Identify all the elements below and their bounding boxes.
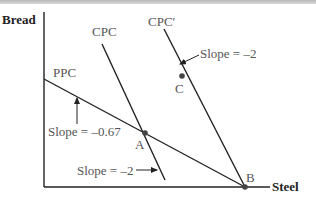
ppc-slope-label: Slope = –0.67 [48,125,121,138]
cpc-prime-slope-arrow [180,55,199,64]
cpc-label: CPC [92,25,117,38]
cpc-slope-label: Slope = –2 [77,164,133,177]
ppc-label: PPC [53,66,76,79]
point-a-label: A [135,138,144,151]
cpc-prime-label: CPC′ [148,15,175,28]
point-a-marker [142,130,148,136]
cpc-prime-slope-label: Slope = –2 [200,47,256,60]
y-axis-label: Bread [2,13,36,26]
point-b-label: B [246,171,255,184]
diagram-canvas [0,0,316,200]
x-axis-label: Steel [272,180,299,193]
point-c-label: C [175,82,184,95]
cpc-line [102,44,165,180]
point-b-marker [242,184,248,190]
point-c-marker [179,73,185,79]
